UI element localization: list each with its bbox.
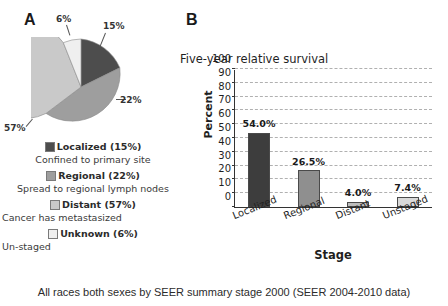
ytick-label-30: 30 (218, 149, 231, 160)
tickmark-80 (232, 96, 235, 97)
ytick-label-80: 80 (218, 80, 231, 91)
ytick-label-0: 0 (225, 191, 231, 202)
legend-label-distant: Distant (57%) (62, 199, 136, 210)
figure-caption: All races both sexes by SEER summary sta… (0, 286, 448, 298)
tickmark-20 (232, 178, 235, 179)
tickmark-90 (232, 82, 235, 83)
pie-legend: Localized (15%) Confined to primary site… (0, 141, 186, 257)
legend-label-unknown: Unknown (6%) (60, 228, 138, 239)
ytick-label-50: 50 (218, 122, 231, 133)
panel-b-bar-chart: B Five-year relative survival Percent 10… (186, 0, 448, 285)
pie-label-distant: 57% (4, 123, 26, 133)
panel-a-letter: A (24, 11, 36, 29)
tickmark-10 (232, 192, 235, 193)
leader-line-6 (66, 25, 70, 36)
panel-a-pie-chart: A 6% 15% 22% 57% Localized (15%) Confine… (0, 0, 186, 285)
bar-value-unstaged: 7.4% (394, 182, 420, 193)
legend-label-localized: Localized (15%) (57, 141, 142, 152)
gridline-70 (235, 109, 432, 110)
panel-b-letter: B (186, 11, 198, 29)
tickmark-30 (232, 165, 235, 166)
tickmark-100 (232, 68, 235, 69)
legend-swatch-unknown (48, 229, 58, 239)
tickmark-70 (232, 109, 235, 110)
bar-value-regional: 26.5% (292, 156, 325, 167)
legend-swatch-regional (46, 171, 56, 181)
legend-swatch-localized (45, 142, 55, 152)
bar-value-localized: 54.0% (243, 118, 276, 129)
bar-chart-y-axis-label: Percent (202, 80, 215, 150)
legend-item-distant: Distant (57%) Cancer has metastasized (0, 199, 186, 223)
pie-chart-graphic (31, 37, 131, 137)
legend-desc-regional: Spread to regional lymph nodes (0, 183, 186, 194)
bar-chart-title: Five-year relative survival (180, 52, 328, 66)
legend-item-unknown: Unknown (6%) Un-staged (0, 228, 186, 252)
legend-item-localized: Localized (15%) Confined to primary site (0, 141, 186, 165)
pie-label-regional: 22% (120, 95, 142, 105)
gridline-80 (235, 96, 432, 97)
ytick-label-70: 70 (218, 94, 231, 105)
tickmark-50 (232, 137, 235, 138)
legend-desc-localized: Confined to primary site (0, 154, 186, 165)
tickmark-40 (232, 151, 235, 152)
ytick-label-40: 40 (218, 135, 231, 146)
pie-label-localized: 15% (103, 21, 125, 31)
legend-desc-distant: Cancer has metastasized (0, 212, 186, 223)
ytick-label-90: 90 (218, 66, 231, 77)
bar-chart-plot-area: 100 90 80 70 60 50 40 30 20 10 0 54 (234, 70, 432, 208)
legend-item-regional: Regional (22%) Spread to regional lymph … (0, 170, 186, 194)
legend-swatch-distant (50, 200, 60, 210)
bar-chart-x-axis-label: Stage (234, 248, 432, 262)
pie-svg (31, 37, 131, 137)
gridline-100 (235, 68, 432, 69)
ytick-label-10: 10 (218, 177, 231, 188)
ytick-label-60: 60 (218, 108, 231, 119)
ytick-label-20: 20 (218, 163, 231, 174)
legend-desc-unknown: Un-staged (0, 241, 186, 252)
pie-label-unknown: 6% (56, 14, 71, 24)
ytick-label-100: 100 (212, 53, 231, 64)
tickmark-0 (232, 206, 235, 207)
legend-label-regional: Regional (22%) (58, 170, 140, 181)
tickmark-60 (232, 123, 235, 124)
gridline-90 (235, 82, 432, 83)
